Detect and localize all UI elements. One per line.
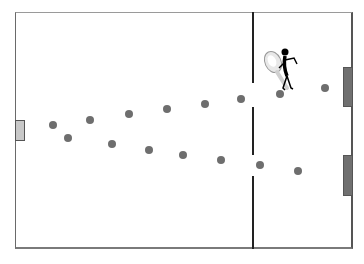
ball-dot bbox=[145, 146, 153, 154]
ball-dot bbox=[201, 100, 209, 108]
center-line-segment bbox=[252, 12, 254, 83]
ball-dot bbox=[294, 167, 302, 175]
player-with-racket-icon[interactable] bbox=[261, 48, 309, 100]
center-line-segment bbox=[252, 107, 254, 155]
ball-dot bbox=[163, 105, 171, 113]
ball-dot bbox=[256, 161, 264, 169]
ball-dot bbox=[108, 140, 116, 148]
goal-left bbox=[15, 120, 25, 141]
goal-right-bottom bbox=[343, 155, 353, 196]
ball-dot bbox=[125, 110, 133, 118]
ball-dot bbox=[49, 121, 57, 129]
goal-right-top bbox=[343, 67, 353, 107]
ball-dot bbox=[64, 134, 72, 142]
ball-dot bbox=[179, 151, 187, 159]
ball-dot bbox=[217, 156, 225, 164]
ball-dot bbox=[237, 95, 245, 103]
ball-dot bbox=[321, 84, 329, 92]
ball-dot bbox=[86, 116, 94, 124]
center-line-segment bbox=[252, 176, 254, 249]
